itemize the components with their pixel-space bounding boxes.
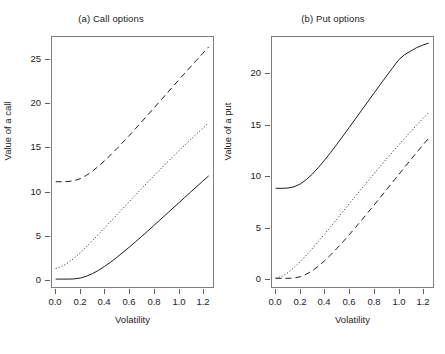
plot-lines-b	[272, 37, 433, 287]
y-tick-mark	[265, 176, 270, 177]
y-tick-mark	[265, 228, 270, 229]
y-tick-label: 0	[11, 274, 41, 285]
y-tick-mark	[45, 59, 50, 60]
series-line-solid	[56, 176, 209, 279]
y-tick-label: 5	[11, 230, 41, 241]
chart-panel-put-options: (b) Put options Value of a put Volatilit…	[222, 0, 444, 354]
series-line-dotted	[56, 123, 209, 269]
panel-title-b: (b) Put options	[222, 13, 444, 24]
x-tick-mark	[80, 289, 81, 294]
y-tick-label: 5	[231, 222, 261, 233]
y-tick-mark	[45, 147, 50, 148]
x-tick-mark	[129, 289, 130, 294]
plot-lines-a	[52, 37, 213, 287]
y-tick-label: 10	[231, 170, 261, 181]
x-tick-mark	[399, 289, 400, 294]
x-tick-mark	[324, 289, 325, 294]
x-axis-title-b: Volatility	[271, 314, 434, 325]
x-tick-mark	[154, 289, 155, 294]
plot-area-a	[51, 36, 214, 288]
x-tick-mark	[374, 289, 375, 294]
x-tick-mark	[104, 289, 105, 294]
series-line-dashed	[56, 47, 209, 182]
series-line-dotted	[276, 112, 429, 278]
y-tick-mark	[45, 192, 50, 193]
x-tick-mark	[203, 289, 204, 294]
x-tick-mark	[349, 289, 350, 294]
y-tick-label: 10	[11, 186, 41, 197]
y-tick-label: 15	[11, 141, 41, 152]
x-tick-label: 1.2	[188, 296, 218, 307]
x-tick-mark	[423, 289, 424, 294]
x-tick-mark	[275, 289, 276, 294]
y-tick-label: 25	[11, 53, 41, 64]
plot-area-b	[271, 36, 434, 288]
y-tick-mark	[45, 103, 50, 104]
y-tick-mark	[265, 279, 270, 280]
x-tick-label: 1.2	[408, 296, 438, 307]
y-tick-label: 0	[231, 273, 261, 284]
y-tick-mark	[265, 125, 270, 126]
y-tick-mark	[45, 236, 50, 237]
panel-title-a: (a) Call options	[0, 13, 222, 24]
x-tick-mark	[179, 289, 180, 294]
y-tick-mark	[265, 73, 270, 74]
series-line-dashed	[276, 138, 429, 278]
x-axis-title-a: Volatility	[51, 314, 214, 325]
y-tick-label: 20	[231, 67, 261, 78]
figure-canvas: (a) Call options Value of a call Volatil…	[0, 0, 445, 354]
y-tick-label: 20	[11, 97, 41, 108]
x-tick-mark	[300, 289, 301, 294]
y-tick-label: 15	[231, 119, 261, 130]
y-tick-mark	[45, 280, 50, 281]
chart-panel-call-options: (a) Call options Value of a call Volatil…	[0, 0, 222, 354]
x-tick-mark	[55, 289, 56, 294]
